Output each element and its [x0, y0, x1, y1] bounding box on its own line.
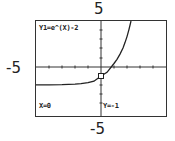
ymax-label: 5 [94, 2, 104, 17]
trace-cursor [99, 74, 104, 79]
calculator-graph-screen: Y1=e^(X)-2 X=0 Y=-1 [35, 20, 167, 117]
y-readout: Y=-1 [103, 103, 119, 110]
function-label: Y1=e^(X)-2 [39, 25, 78, 32]
ymin-label: -5 [90, 122, 105, 137]
x-readout: X=0 [39, 103, 51, 110]
xmin-label: -5 [6, 61, 21, 76]
graph-plot [36, 21, 166, 116]
